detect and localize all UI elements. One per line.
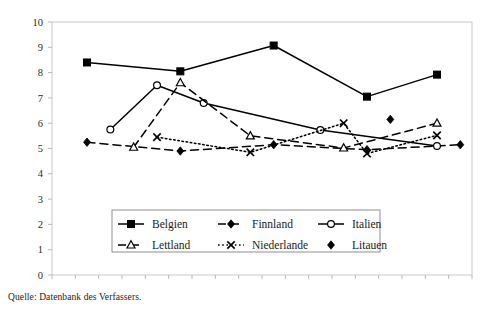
filled-square-marker-icon — [434, 71, 441, 78]
chart-plot-area: 012345678910 909192939495969798990001020… — [0, 0, 487, 282]
open-circle-marker-icon — [328, 221, 335, 228]
y-axis-tick-label: 10 — [33, 17, 44, 28]
y-axis-tick-label: 0 — [38, 270, 43, 281]
y-axis-tick-label: 1 — [38, 244, 43, 255]
filled-square-marker-icon — [128, 221, 135, 228]
legend-item-label: Belgien — [152, 218, 188, 231]
line-chart: 012345678910 909192939495969798990001020… — [0, 0, 487, 282]
filled-square-marker-icon — [84, 59, 91, 66]
open-circle-marker-icon — [154, 82, 161, 89]
y-axis-tick-label: 8 — [38, 67, 43, 78]
filled-square-marker-icon — [364, 93, 371, 100]
legend-item-label: Litauen — [352, 239, 387, 251]
filled-square-marker-icon — [270, 42, 277, 49]
x-axis: 909192939495969798990001020304050607 — [52, 275, 472, 282]
legend-item-label: Finnland — [252, 218, 293, 230]
legend-item-label: Niederlande — [252, 239, 308, 251]
y-axis-tick-label: 9 — [38, 42, 43, 53]
figure-container: 012345678910 909192939495969798990001020… — [0, 0, 487, 315]
legend-item-label: Lettland — [152, 239, 191, 251]
y-axis-tick-label: 3 — [38, 194, 43, 205]
chart-legend: BelgienFinnlandItalienLettlandNiederland… — [112, 210, 387, 252]
filled-square-marker-icon — [177, 68, 184, 75]
y-axis: 012345678910 — [33, 17, 53, 281]
y-axis-tick-label: 2 — [38, 219, 43, 230]
y-axis-tick-label: 6 — [38, 118, 43, 129]
open-circle-marker-icon — [434, 143, 441, 150]
source-note: Quelle: Datenbank des Verfassers. — [8, 292, 141, 302]
y-axis-tick-label: 5 — [38, 143, 43, 154]
open-circle-marker-icon — [107, 126, 114, 133]
y-axis-tick-label: 4 — [38, 168, 44, 179]
legend-item-label: Italien — [352, 218, 382, 230]
y-axis-tick-label: 7 — [38, 93, 43, 104]
